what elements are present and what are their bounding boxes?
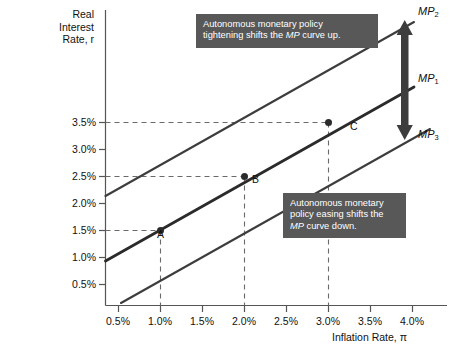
y-tick-label: 2.5% [40, 170, 96, 182]
x-tick-label: 2.5% [266, 315, 306, 327]
point-b [241, 173, 248, 180]
y-tick-label: 3.0% [40, 143, 96, 155]
y-tick-label: 2.0% [40, 197, 96, 209]
shift-arrow-icon [397, 20, 413, 140]
x-tick-label: 2.0% [224, 315, 264, 327]
x-tick-marks [119, 306, 413, 313]
y-tick-label: 0.5% [40, 278, 96, 290]
curve-label-mp3: MP3 [418, 128, 439, 140]
curve-label-mp1: MP1 [418, 72, 439, 84]
curve-mp2 [106, 22, 415, 196]
point-c [325, 119, 332, 126]
curve-label-mp2: MP2 [418, 5, 439, 17]
y-tick-label: 3.5% [40, 116, 96, 128]
y-tick-label: 1.5% [40, 224, 96, 236]
x-axis-title: Inflation Rate, π [332, 331, 407, 344]
point-label-a: A [157, 228, 164, 240]
x-tick-label: 1.5% [182, 315, 222, 327]
x-tick-label: 3.0% [308, 315, 348, 327]
point-label-c: C [350, 120, 358, 132]
x-tick-label: 0.5% [98, 315, 138, 327]
x-tick-label: 3.5% [350, 315, 390, 327]
point-label-b: B [252, 173, 259, 185]
annotation-tightening: Autonomous monetary policytightening shi… [196, 14, 378, 48]
y-tick-label: 1.0% [40, 251, 96, 263]
annotation-easing: Autonomous monetarypolicy easing shifts … [283, 193, 406, 238]
x-tick-label: 1.0% [140, 315, 180, 327]
mp-curve-figure: RealInterestRate, r Inflation Rate, π 0.… [0, 0, 467, 354]
x-tick-label: 4.0% [392, 315, 432, 327]
y-axis-title: RealInterestRate, r [10, 8, 94, 46]
